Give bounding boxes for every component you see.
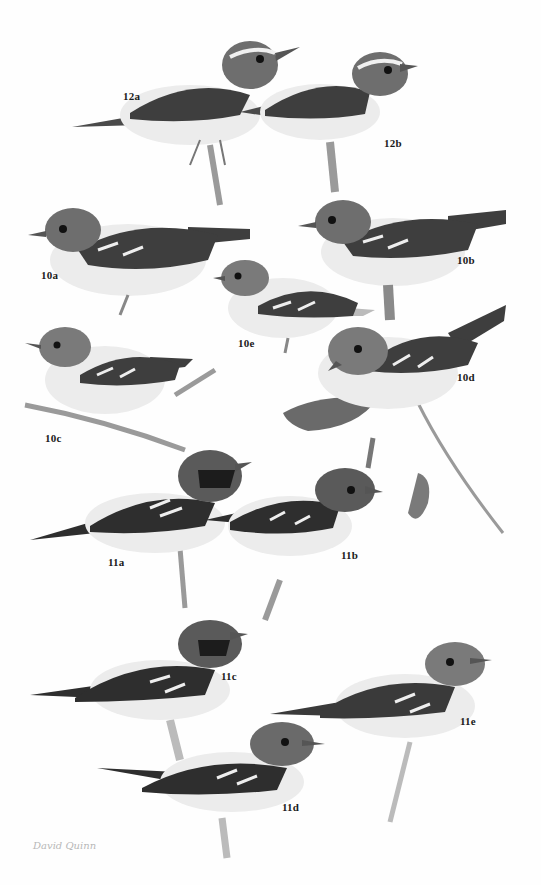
figure-label-11a: 11a [108, 556, 125, 568]
figure-label-12a: 12a [123, 90, 140, 102]
figure-label-12b: 12b [384, 137, 402, 149]
bird-11d [97, 728, 327, 858]
figure-label-11e: 11e [460, 715, 476, 727]
figure-label-11d: 11d [282, 801, 299, 813]
illustration-plate: 12a 12b 10a 10b 10e 10c 10d 11a 11b 11c … [0, 0, 541, 885]
figure-label-10e: 10e [238, 337, 254, 349]
figure-label-10a: 10a [41, 269, 58, 281]
figure-label-10c: 10c [45, 432, 61, 444]
artist-signature: David Quinn [33, 840, 96, 851]
figure-label-11c: 11c [221, 670, 237, 682]
figure-label-11b: 11b [341, 549, 358, 561]
bird-12b [240, 52, 420, 192]
figure-label-10b: 10b [457, 254, 475, 266]
figure-label-10d: 10d [457, 371, 475, 383]
bird-11b [205, 470, 385, 620]
